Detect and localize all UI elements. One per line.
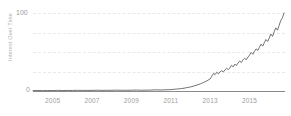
x-axis-tick-label-2005: 2005 <box>45 97 60 104</box>
plot-area <box>33 13 285 91</box>
y-axis-tick-label-0: 0 <box>26 86 30 93</box>
series-path-interest-over-time <box>33 13 284 91</box>
series-line-chart <box>33 13 285 91</box>
x-axis-tick-label-2009: 2009 <box>124 97 139 104</box>
x-axis-tick-label-2007: 2007 <box>84 97 99 104</box>
y-axis-tick-label-100: 100 <box>16 9 28 16</box>
x-axis-tick-label-2013: 2013 <box>203 97 218 104</box>
y-axis-title: Interest Over Time <box>7 5 13 69</box>
x-axis: 200520072009201120132015 <box>33 97 285 109</box>
chart-container: Interest Over Time 100 0 200520072009201… <box>0 0 291 116</box>
x-axis-tick-label-2015: 2015 <box>242 97 257 104</box>
gridline-y-0 <box>33 91 285 92</box>
x-axis-tick-label-2011: 2011 <box>163 97 178 104</box>
